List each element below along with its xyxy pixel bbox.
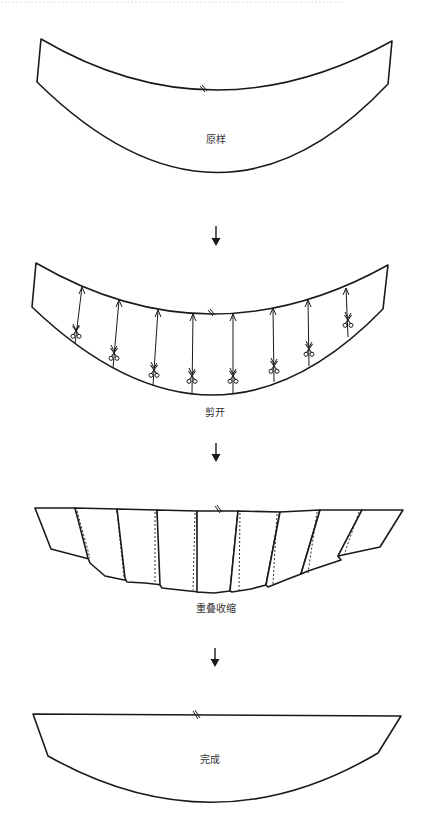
down-arrow-icon	[212, 226, 221, 246]
original-pattern-piece	[37, 39, 392, 173]
step-label-overlap: 重叠收缩	[196, 600, 236, 615]
step-label-done: 完成	[200, 751, 220, 766]
step-label-original: 原样	[206, 131, 226, 146]
cut-pattern-piece	[32, 263, 388, 395]
down-arrow-icon	[211, 648, 220, 667]
down-arrow-icon	[212, 443, 221, 462]
overlapped-pattern-piece	[35, 505, 403, 593]
step-label-cut: 剪开	[205, 404, 225, 419]
